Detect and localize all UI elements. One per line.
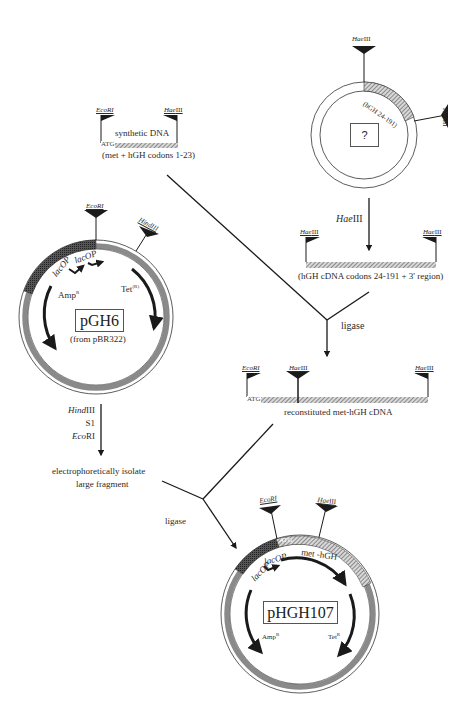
flow-line [162, 481, 203, 499]
pgh6-plasmid [19, 210, 173, 394]
flow-arrow [203, 499, 236, 548]
hgh-cdna-caption: (hGH cDNA codons 24-191 + 3' region) [298, 271, 443, 281]
plasmid-name-pgh6: pGH6 [75, 309, 124, 332]
start-codon-label: ATG [101, 141, 115, 148]
flow-line [167, 175, 327, 320]
flow-line [203, 424, 273, 499]
enzyme-ecori: EcoRI [59, 431, 95, 441]
site-label-ecori: EcoRI [242, 364, 260, 372]
site-label-ecori: EcoRI [96, 106, 114, 114]
site-label-ecori: EcoRI [86, 202, 104, 210]
isolate-step-line1: electrophoretically isolate [52, 466, 145, 476]
gene-label-tet: Tet(R) [121, 284, 139, 294]
gene-label-amp: AmpR [58, 290, 79, 300]
site-label-haeiii: HaeIII [441, 108, 449, 127]
site-label-haeiii: HaeIII [423, 228, 442, 236]
phgh107-plasmid [221, 503, 379, 693]
restriction-site-icon [352, 46, 376, 54]
start-codon-label: ATG [247, 396, 261, 403]
ligase-label: ligase [165, 516, 186, 526]
haeiii-step-label: HaeIII [336, 213, 363, 224]
hgh-cdna-fragment [306, 237, 436, 268]
site-label-haeiii: HaeIII [289, 364, 308, 372]
enzyme-s1: S1 [59, 418, 95, 428]
synthetic-dna-caption: (met + hGH codons 1-23) [102, 150, 195, 160]
start-codon-label: ATG [279, 537, 293, 544]
gene-label-amp: AmpR [262, 632, 279, 641]
isolate-step-line2: large fragment [76, 479, 129, 489]
plasmid-name-phgh107: pHGH107 [263, 601, 338, 624]
site-label-haeiii: HaeIII [300, 228, 319, 236]
synthetic-dna-label: synthetic DNA [115, 128, 169, 138]
ligase-label: ligase [341, 320, 364, 331]
diagram-canvas [0, 0, 474, 725]
site-label-haeiii: HaeIII [352, 35, 371, 43]
site-label-haeiii: HaeIII [164, 106, 183, 114]
flow-line [327, 292, 369, 320]
unknown-plasmid-box: ? [350, 123, 379, 147]
gene-label-tet: TetR [328, 632, 340, 641]
reconstituted-caption: reconstituted met-hGH cDNA [284, 407, 392, 417]
site-label-haeiii: HaeIII [415, 364, 434, 372]
reconstituted-cdna [247, 371, 428, 403]
enzyme-hindiii: HindIII [59, 405, 95, 415]
plasmid-origin-label: (from pBR322) [70, 334, 126, 344]
